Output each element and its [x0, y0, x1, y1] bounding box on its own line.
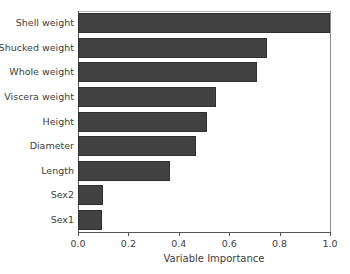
y-axis-tick-label: Sex2 — [0, 190, 74, 200]
bar-row — [78, 185, 103, 205]
y-axis-tick-label: Sex1 — [0, 215, 74, 225]
variable-importance-bar-chart: Shell weightShucked weightWhole weightVi… — [0, 0, 350, 274]
x-axis-tick-mark — [179, 232, 180, 236]
bar-row — [78, 13, 330, 33]
y-axis-tick-label: Viscera weight — [0, 92, 74, 102]
x-axis-tick-mark — [280, 232, 281, 236]
bar — [78, 38, 267, 58]
x-axis-tick-label: 0.0 — [58, 238, 98, 249]
x-axis-tick-label: 0.8 — [260, 238, 300, 249]
plot-right-spine — [330, 11, 331, 233]
bar — [78, 13, 330, 33]
bar-row — [78, 87, 216, 107]
bar — [78, 136, 196, 156]
bar — [78, 112, 207, 132]
x-axis-tick-label: 0.6 — [209, 238, 249, 249]
y-axis-tick-label: Height — [0, 117, 74, 127]
bar — [78, 87, 216, 107]
x-axis-tick-label: 1.0 — [310, 238, 350, 249]
y-axis-tick-label: Diameter — [0, 141, 74, 151]
x-axis-title: Variable Importance — [0, 253, 350, 264]
x-axis-tick-mark — [78, 232, 79, 236]
x-axis-tick-mark — [128, 232, 129, 236]
bar-row — [78, 161, 170, 181]
bar-row — [78, 112, 207, 132]
y-axis-tick-label: Length — [0, 166, 74, 176]
y-axis-tick-label: Shucked weight — [0, 43, 74, 53]
bar — [78, 161, 170, 181]
x-axis-tick-label: 0.4 — [159, 238, 199, 249]
x-axis-tick-label: 0.2 — [108, 238, 148, 249]
y-axis-tick-label: Shell weight — [0, 18, 74, 28]
x-axis-line — [78, 232, 331, 233]
bar-row — [78, 136, 196, 156]
x-axis-tick-mark — [330, 232, 331, 236]
y-axis-tick-label: Whole weight — [0, 67, 74, 77]
bar-row — [78, 62, 257, 82]
x-axis-tick-mark — [229, 232, 230, 236]
bar — [78, 185, 103, 205]
bar — [78, 210, 102, 230]
bar-row — [78, 38, 267, 58]
bar-row — [78, 210, 102, 230]
bar — [78, 62, 257, 82]
